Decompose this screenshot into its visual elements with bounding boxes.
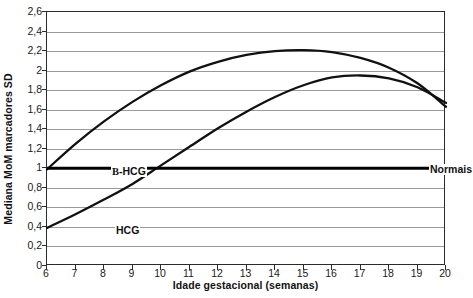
y-axis-tick-label: 2,2 xyxy=(0,44,42,56)
x-axis-title: Idade gestacional (semanas) xyxy=(46,279,445,291)
y-axis-tick-label: 2 xyxy=(0,64,42,76)
y-axis-tick-label: 0,4 xyxy=(0,220,42,232)
x-axis-tick-mark xyxy=(160,265,161,270)
y-axis-tick-label: 0,8 xyxy=(0,181,42,193)
y-axis-tick-label: 1,8 xyxy=(0,83,42,95)
y-axis-tick-label: 0,6 xyxy=(0,200,42,212)
y-axis-tick-label: 1,4 xyxy=(0,122,42,134)
y-axis-tick-label: 2,6 xyxy=(0,5,42,17)
x-axis-tick-mark xyxy=(303,265,304,270)
x-axis-tick-mark xyxy=(75,265,76,270)
series-line-b-hcg xyxy=(47,50,446,169)
x-axis-tick-mark xyxy=(445,265,446,270)
series-label-hcg: HCG xyxy=(115,225,140,236)
series-curves xyxy=(47,12,446,266)
x-axis-tick-mark xyxy=(246,265,247,270)
y-axis-tick-label: 0,2 xyxy=(0,239,42,251)
x-axis-tick-mark xyxy=(274,265,275,270)
x-axis-tick-mark xyxy=(103,265,104,270)
x-axis-tick-mark xyxy=(388,265,389,270)
y-axis-tick-label: 1 xyxy=(0,161,42,173)
y-axis-tick-label: 2,4 xyxy=(0,25,42,37)
series-label-b-hcg: B-HCG xyxy=(111,166,147,177)
x-axis-tick-mark xyxy=(331,265,332,270)
x-axis-tick-mark xyxy=(46,265,47,270)
x-axis-tick-mark xyxy=(417,265,418,270)
y-axis-tick-label: 1,6 xyxy=(0,103,42,115)
x-axis-tick-mark xyxy=(132,265,133,270)
y-axis-tick-label: 1,2 xyxy=(0,142,42,154)
x-axis-tick-mark xyxy=(217,265,218,270)
series-label-normais: Normais xyxy=(429,164,473,175)
plot-area: B-HCG HCG Normais xyxy=(46,11,445,265)
x-axis-tick-mark xyxy=(189,265,190,270)
x-axis-tick-mark xyxy=(360,265,361,270)
series-line-hcg xyxy=(47,75,446,227)
